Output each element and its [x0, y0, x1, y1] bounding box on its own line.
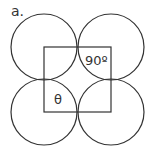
diagram-canvas — [0, 0, 156, 154]
right-angle-label: 90º — [85, 54, 108, 67]
theta-angle-label: θ — [54, 93, 62, 106]
figure-label: a. — [11, 4, 24, 18]
